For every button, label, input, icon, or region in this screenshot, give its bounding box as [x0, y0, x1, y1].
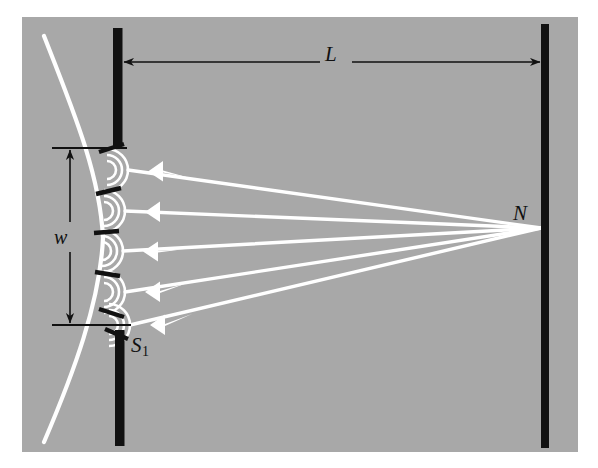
label-slit-S1: S1 [131, 335, 149, 359]
left-barrier-lower [115, 330, 125, 446]
huygens-diffraction-diagram [0, 0, 598, 468]
label-slit-width-w: w [54, 227, 67, 247]
label-distance-L: L [325, 44, 337, 65]
left-barrier-upper [113, 28, 123, 146]
slit-tick-3 [94, 231, 119, 233]
right-screen [541, 24, 549, 448]
label-focus-point-N: N [513, 203, 527, 224]
label-slit-S1-base: S [131, 333, 142, 357]
figure-root: L w N S1 [0, 0, 598, 468]
label-slit-S1-subscript: 1 [142, 344, 149, 359]
